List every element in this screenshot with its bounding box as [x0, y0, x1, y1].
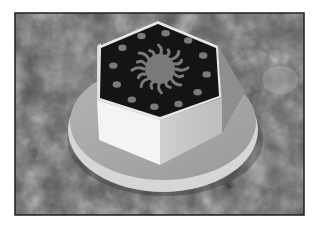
top-dot: [203, 71, 211, 77]
top-dot: [161, 30, 169, 36]
top-dot: [137, 33, 145, 39]
top-dot: [199, 52, 207, 58]
photo-scene: [0, 0, 318, 227]
top-dot: [174, 101, 182, 107]
top-dot: [193, 89, 201, 95]
top-dot: [184, 37, 192, 43]
sun-emblem: [132, 45, 188, 93]
top-dot: [109, 62, 117, 68]
top-dot: [118, 45, 126, 51]
top-dot: [113, 81, 121, 87]
sun-disc: [145, 54, 175, 84]
top-dot: [128, 96, 136, 102]
top-dot: [150, 104, 158, 110]
